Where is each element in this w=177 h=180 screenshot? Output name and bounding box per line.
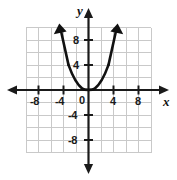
x-tick-label-4: 4 — [110, 96, 116, 107]
x-tick-label-neg4: -4 — [55, 96, 64, 107]
y-tick-label-neg4: -4 — [68, 110, 77, 121]
x-axis-label: x — [163, 95, 170, 108]
x-tick-label-8: 8 — [135, 96, 141, 107]
y-tick-label-8: 8 — [73, 35, 79, 46]
y-axis-label: y — [77, 4, 83, 17]
y-tick-label-neg8: -8 — [68, 135, 77, 146]
y-tick-label-4: 4 — [73, 60, 79, 71]
coordinate-plane-figure: -8 -4 4 8 0 8 4 -4 -8 y x — [0, 0, 177, 180]
x-tick-label-neg8: -8 — [30, 96, 39, 107]
origin-label: 0 — [79, 95, 85, 106]
graph-canvas — [0, 0, 177, 180]
